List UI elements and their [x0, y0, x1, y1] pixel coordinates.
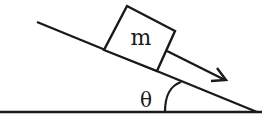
angle-arc [165, 82, 181, 112]
motion-arrow-shaft [167, 51, 225, 80]
angle-label: θ [140, 88, 152, 112]
mass-label: m [131, 25, 152, 50]
inclined-plane-diagram: m θ [0, 0, 270, 121]
